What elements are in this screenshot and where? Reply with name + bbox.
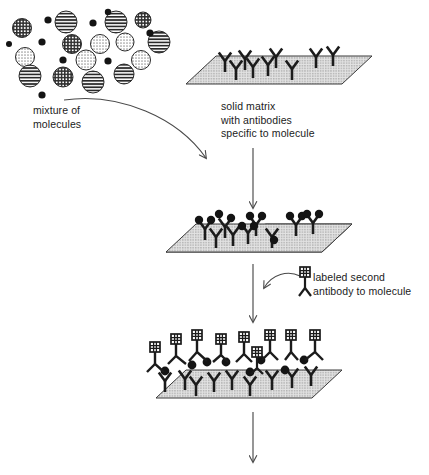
immunoassay-diagram: mixture of molecules solid matrix with a… [0, 0, 429, 475]
arrow-curved-icon [264, 273, 300, 288]
stage-3-detection [147, 330, 342, 398]
caption-labeled-second-antibody: labeled second antibody to molecule [313, 271, 411, 298]
legend-labeled-antibody-icon [299, 267, 311, 296]
molecule-cluster [6, 9, 170, 99]
arrow-curved-icon [64, 99, 206, 158]
stage-1-matrix [186, 47, 372, 85]
diagram-canvas [0, 0, 429, 475]
caption-mixture-of-molecules: mixture of molecules [33, 104, 81, 131]
stage-2-capture [166, 210, 352, 252]
caption-solid-matrix: solid matrix with antibodies specific to… [221, 100, 315, 141]
labeled-antibody-row-3 [147, 330, 323, 374]
